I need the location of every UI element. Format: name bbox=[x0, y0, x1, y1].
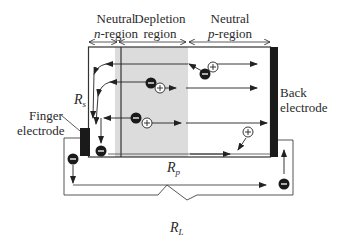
n-region-label-line2: n-region bbox=[94, 26, 139, 41]
parallel-resistance-label: Rp bbox=[166, 160, 181, 177]
depletion-region bbox=[115, 47, 188, 157]
depletion-label-line2: region bbox=[143, 26, 177, 41]
finger-electrode bbox=[80, 128, 90, 156]
back-electrode-label-line2: electrode bbox=[280, 100, 328, 115]
hole-icon bbox=[208, 62, 218, 72]
finger-electrode-label-line1: Finger bbox=[29, 108, 64, 123]
load-resistance-label: RL bbox=[169, 220, 184, 237]
region-label-depletion: Depletion region bbox=[134, 11, 186, 41]
solar-cell-diagram: Neutral n-region Depletion region Neutra… bbox=[0, 0, 338, 245]
electron-icon bbox=[279, 179, 290, 190]
p-region-label-line2: p-region bbox=[207, 26, 253, 41]
depletion-label-line1: Depletion bbox=[134, 11, 186, 26]
back-electrode bbox=[270, 47, 278, 157]
series-resistance-label: Rs bbox=[73, 92, 87, 109]
back-electrode-label-line1: Back bbox=[280, 85, 307, 100]
hole-icon bbox=[142, 118, 152, 128]
electron-icon bbox=[96, 146, 107, 157]
n-region-label-line1: Neutral bbox=[97, 11, 136, 26]
hole-icon bbox=[243, 127, 253, 137]
region-label-n: Neutral n-region bbox=[94, 11, 139, 41]
hole-icon bbox=[155, 83, 165, 93]
finger-electrode-label-line2: electrode bbox=[17, 123, 65, 138]
region-label-p: Neutral p-region bbox=[207, 11, 253, 41]
electron-icon bbox=[68, 154, 79, 165]
p-region-label-line1: Neutral bbox=[211, 11, 250, 26]
electron-icon bbox=[131, 113, 142, 124]
